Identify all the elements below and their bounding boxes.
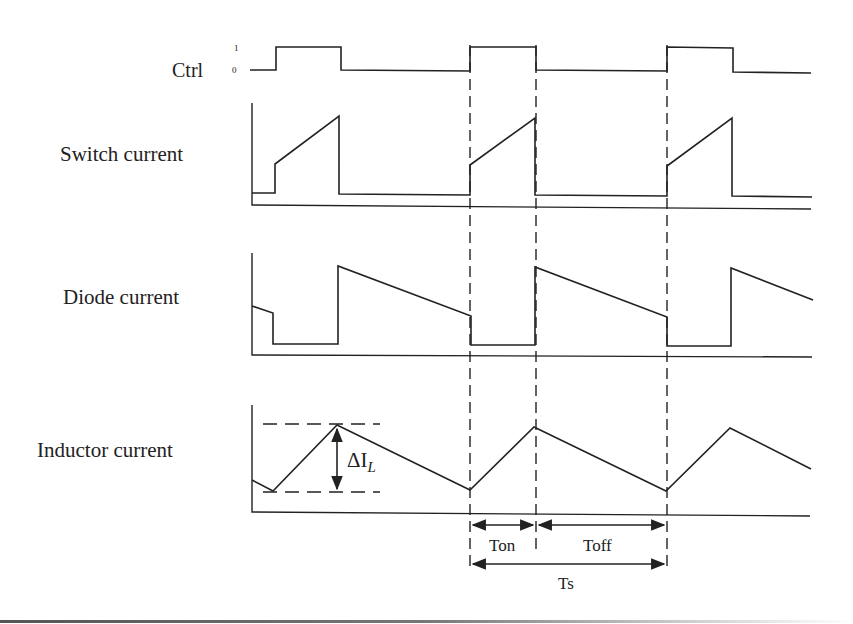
switch-current-waveform bbox=[252, 116, 812, 197]
ctrl-level-low: 0 bbox=[232, 65, 237, 75]
toff-label: Toff bbox=[583, 536, 612, 555]
ripple-subscript: L bbox=[367, 459, 376, 475]
diode-current-waveform bbox=[252, 266, 813, 346]
ctrl-waveform bbox=[250, 47, 811, 73]
ton-label: Ton bbox=[489, 536, 516, 555]
switch-current-plot bbox=[252, 103, 812, 209]
switch-current-label: Switch current bbox=[60, 142, 183, 166]
ctrl-label: Ctrl bbox=[172, 59, 204, 81]
inductor-current-plot bbox=[252, 405, 811, 516]
ripple-label: ΔIL bbox=[347, 448, 376, 475]
ripple-symbol: ΔI bbox=[347, 448, 368, 472]
page-bottom-rule bbox=[0, 620, 853, 623]
ctrl-level-high: 1 bbox=[234, 43, 239, 53]
diode-current-label: Diode current bbox=[63, 285, 179, 309]
period-guides bbox=[470, 45, 667, 572]
inductor-current-label: Inductor current bbox=[37, 438, 173, 462]
ts-label: Ts bbox=[558, 574, 574, 593]
timing-diagram: Ctrl 1 0 Switch current Diode current In… bbox=[0, 0, 853, 624]
inductor-current-waveform bbox=[252, 425, 811, 491]
diode-current-plot bbox=[252, 253, 813, 357]
